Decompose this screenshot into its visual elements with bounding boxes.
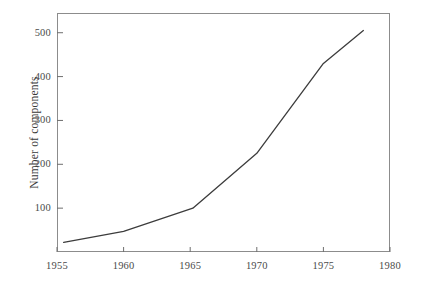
x-tick-label-1960: 1960 <box>113 261 135 272</box>
y-axis-title: Number of components <box>26 13 42 252</box>
x-tick-label-1970: 1970 <box>246 261 268 272</box>
x-tick-label-1980: 1980 <box>379 261 401 272</box>
x-tick-label-1975: 1975 <box>312 261 334 272</box>
line-chart: 195519601965197019751980 100200300400500… <box>0 0 428 283</box>
x-tick-label-1955: 1955 <box>46 261 68 272</box>
x-tick-label-1965: 1965 <box>179 261 201 272</box>
plot-area-frame <box>57 13 390 252</box>
